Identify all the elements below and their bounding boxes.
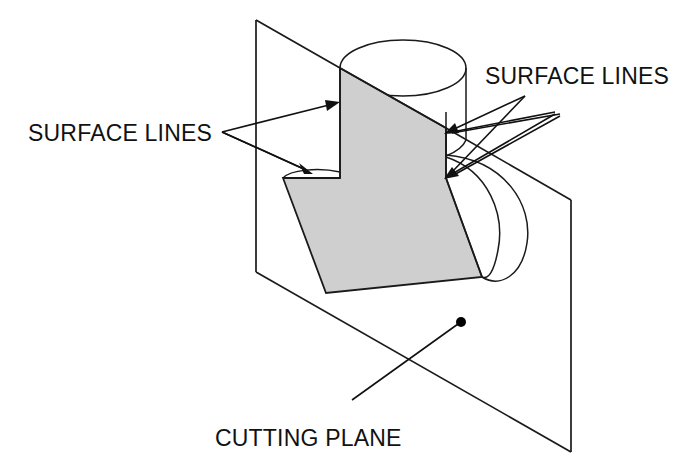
surface-lines-left-arrowhead-upper	[325, 100, 340, 111]
cutting-plane-label: CUTTING PLANE	[215, 425, 402, 451]
annotation-cutting-plane[interactable]: CUTTING PLANE	[215, 317, 466, 451]
surface-lines-left-label: SURFACE LINES	[28, 120, 212, 146]
cylinder-right-silhouette	[446, 68, 466, 156]
surface-lines-left-leader-upper	[222, 104, 333, 132]
surface-lines-right-leader-2	[452, 96, 525, 172]
surface-lines-left-leader-join	[222, 132, 306, 170]
surface-lines-right-label: SURFACE LINES	[485, 63, 669, 89]
diagram-canvas: SURFACE LINES SURFACE LINES	[0, 0, 685, 471]
cutting-plane-top-edge-right	[446, 128, 571, 200]
annotation-surface-lines-right[interactable]: SURFACE LINES	[444, 63, 669, 179]
cutting-plane-leader-dot	[456, 317, 466, 327]
cutting-plane-diagram: SURFACE LINES SURFACE LINES	[0, 0, 685, 471]
section-cut-face	[283, 68, 482, 293]
section-polygon	[283, 68, 482, 293]
annotation-surface-lines-left[interactable]: SURFACE LINES	[28, 100, 340, 174]
cutting-plane-top-edge-left	[256, 20, 340, 68]
surface-lines-right-tail-lower	[452, 116, 560, 176]
